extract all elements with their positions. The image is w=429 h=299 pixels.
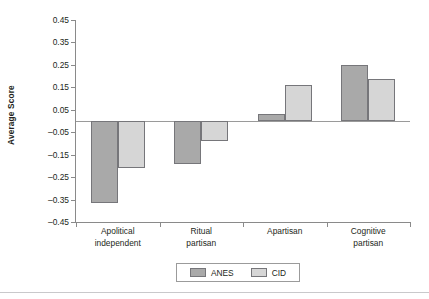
legend-swatch-cid: [251, 268, 267, 277]
footer-rule: [0, 292, 429, 293]
bar-chart-figure: Average Score 0.450.350.250.150.05–0.05–…: [0, 0, 429, 299]
x-axis-tick: [410, 222, 411, 227]
bar-anes-apolitical-independent: [91, 121, 118, 203]
y-axis-tick: [71, 177, 76, 178]
legend-label-anes: ANES: [211, 268, 234, 278]
bar-anes-apartisan: [258, 114, 285, 121]
y-axis-tick: [71, 200, 76, 201]
x-axis-label-line: Apolitical: [76, 226, 160, 238]
legend-swatch-anes: [190, 268, 206, 277]
bar-cid-apolitical-independent: [118, 121, 145, 168]
bar-cid-apartisan: [285, 85, 312, 121]
y-axis-tick: [71, 65, 76, 66]
x-axis-label-cognitive-partisan: Cognitivepartisan: [327, 226, 411, 249]
y-axis-tick-label: 0.15: [29, 82, 69, 92]
y-axis-tick-label: –0.35: [29, 195, 69, 205]
y-axis-tick: [71, 87, 76, 88]
x-axis-label-ritual-partisan: Ritualpartisan: [160, 226, 244, 249]
y-axis-tick-label: 0.25: [29, 60, 69, 70]
bar-anes-cognitive-partisan: [341, 65, 368, 121]
x-axis-label-line: partisan: [327, 238, 411, 250]
y-axis-tick-label: –0.45: [29, 217, 69, 227]
y-axis-tick-label: 0.05: [29, 105, 69, 115]
y-axis-title: Average Score: [0, 0, 22, 230]
x-axis-label-line: Apartisan: [243, 226, 327, 238]
bar-cid-cognitive-partisan: [368, 79, 395, 121]
y-axis-tick: [71, 155, 76, 156]
bar-anes-ritual-partisan: [174, 121, 201, 164]
x-axis-label-line: independent: [76, 238, 160, 250]
y-axis-tick-label: –0.05: [29, 127, 69, 137]
bar-cid-ritual-partisan: [201, 121, 228, 141]
x-axis-label-apolitical-independent: Apoliticalindependent: [76, 226, 160, 249]
legend: ANES CID: [176, 263, 300, 282]
y-axis-title-label: Average Score: [6, 85, 16, 145]
y-axis-tick: [71, 20, 76, 21]
plot-area: 0.450.350.250.150.05–0.05–0.15–0.25–0.35…: [76, 20, 410, 222]
y-axis-tick: [71, 42, 76, 43]
x-axis-label-line: Cognitive: [327, 226, 411, 238]
y-axis-tick-label: –0.15: [29, 150, 69, 160]
legend-label-cid: CID: [272, 268, 286, 278]
y-axis-tick-label: 0.45: [29, 15, 69, 25]
y-axis-tick-label: 0.35: [29, 37, 69, 47]
y-axis-tick-label: –0.25: [29, 172, 69, 182]
x-axis-label-apartisan: Apartisan: [243, 226, 327, 238]
x-axis-label-line: Ritual: [160, 226, 244, 238]
legend-entry-cid: CID: [251, 268, 286, 278]
y-axis-tick: [71, 132, 76, 133]
legend-entry-anes: ANES: [190, 268, 234, 278]
y-axis-tick: [71, 110, 76, 111]
x-axis-label-line: partisan: [160, 238, 244, 250]
x-axis-category-labels: ApoliticalindependentRitualpartisanApart…: [76, 226, 410, 258]
